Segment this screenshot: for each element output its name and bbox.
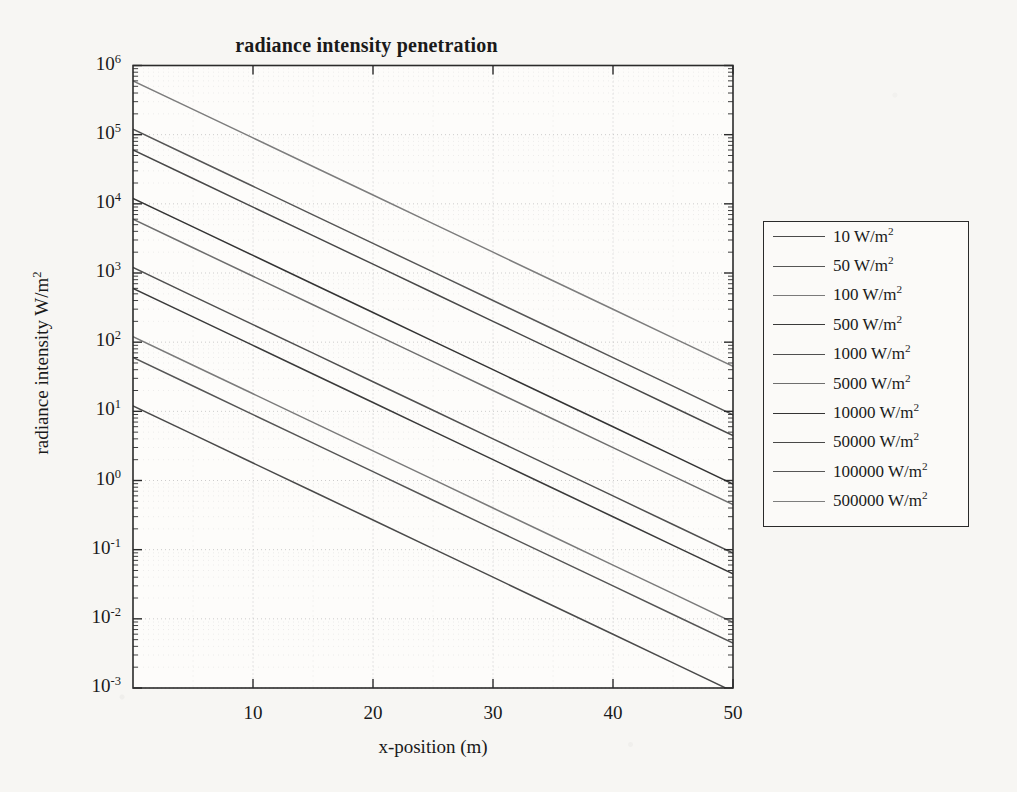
- legend-line-icon: [773, 413, 825, 414]
- legend-label: 500000 W/m2: [833, 491, 928, 511]
- legend-label-text: 50000 W/m: [833, 432, 913, 451]
- legend-line-icon: [773, 471, 825, 472]
- legend-label: 1000 W/m2: [833, 344, 911, 364]
- legend-label-text: 50 W/m: [833, 256, 888, 275]
- legend-item[interactable]: 100000 W/m2: [764, 457, 968, 486]
- legend-label-exponent: 2: [888, 254, 894, 266]
- legend-line-icon: [773, 236, 825, 237]
- legend-label-exponent: 2: [896, 313, 902, 325]
- legend-item[interactable]: 10000 W/m2: [764, 398, 968, 427]
- legend-label: 10000 W/m2: [833, 403, 919, 423]
- legend-item[interactable]: 50 W/m2: [764, 251, 968, 280]
- legend-item[interactable]: 10 W/m2: [764, 222, 968, 251]
- legend-item[interactable]: 5000 W/m2: [764, 369, 968, 398]
- legend-label-text: 500000 W/m: [833, 491, 922, 510]
- legend-label-exponent: 2: [922, 460, 928, 472]
- chart-figure: radiance intensity penetration radiance …: [0, 0, 1017, 792]
- legend-label-exponent: 2: [922, 490, 928, 502]
- legend-label-text: 5000 W/m: [833, 374, 905, 393]
- legend-line-icon: [773, 501, 825, 502]
- legend-item[interactable]: 500 W/m2: [764, 310, 968, 339]
- legend-item[interactable]: 1000 W/m2: [764, 340, 968, 369]
- legend-line-icon: [773, 324, 825, 325]
- legend-label-exponent: 2: [905, 343, 911, 355]
- legend-label-text: 1000 W/m: [833, 344, 905, 363]
- legend-label: 100 W/m2: [833, 285, 902, 305]
- legend: 10 W/m250 W/m2100 W/m2500 W/m21000 W/m25…: [763, 221, 969, 527]
- legend-label: 10 W/m2: [833, 227, 894, 247]
- legend-label-exponent: 2: [905, 372, 911, 384]
- legend-line-icon: [773, 266, 825, 267]
- legend-line-icon: [773, 442, 825, 443]
- legend-item[interactable]: 500000 W/m2: [764, 487, 968, 516]
- legend-label: 5000 W/m2: [833, 374, 911, 394]
- legend-label-exponent: 2: [896, 284, 902, 296]
- legend-item[interactable]: 100 W/m2: [764, 281, 968, 310]
- legend-line-icon: [773, 295, 825, 296]
- legend-label: 50000 W/m2: [833, 432, 919, 452]
- legend-label: 50 W/m2: [833, 256, 894, 276]
- legend-label-text: 10 W/m: [833, 227, 888, 246]
- legend-label-text: 100 W/m: [833, 285, 896, 304]
- legend-line-icon: [773, 383, 825, 384]
- legend-item[interactable]: 50000 W/m2: [764, 428, 968, 457]
- legend-label: 100000 W/m2: [833, 462, 928, 482]
- legend-label-exponent: 2: [913, 431, 919, 443]
- legend-label: 500 W/m2: [833, 315, 902, 335]
- legend-label-text: 500 W/m: [833, 315, 896, 334]
- legend-label-text: 10000 W/m: [833, 403, 913, 422]
- legend-line-icon: [773, 354, 825, 355]
- legend-label-text: 100000 W/m: [833, 462, 922, 481]
- legend-label-exponent: 2: [888, 225, 894, 237]
- plot-background: [133, 66, 733, 689]
- legend-label-exponent: 2: [913, 401, 919, 413]
